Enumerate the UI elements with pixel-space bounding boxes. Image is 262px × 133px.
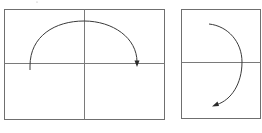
right-panel: [182, 10, 261, 119]
right-arc: [209, 24, 242, 105]
right-panel-frame: [182, 10, 261, 119]
right-arrowhead-icon: [212, 102, 219, 107]
stray-dot: [36, 1, 37, 2]
left-panel: [5, 10, 165, 120]
diagram-canvas: [0, 0, 262, 133]
left-arc: [30, 21, 137, 70]
